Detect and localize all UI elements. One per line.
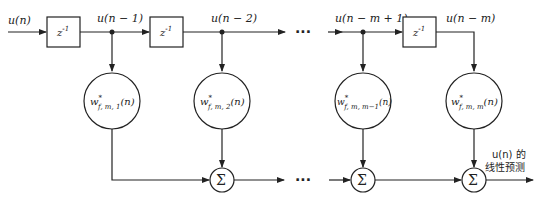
svg-text:Σ: Σ [216, 172, 226, 188]
input-label: u(n) [8, 14, 31, 27]
weight-node-4: w*f, m, m(n) [446, 73, 502, 129]
delay-block-1: z-1 [47, 17, 80, 47]
sum-node-2: Σ [351, 168, 375, 192]
tap-label-1: u(n − 1) [97, 12, 143, 25]
delay-block-2: z-1 [150, 17, 183, 47]
delay-block-3: z-1 [403, 17, 436, 47]
tap-label-2: u(n − 2) [211, 12, 257, 25]
weight-node-2: w*f, m, 2(n) [194, 73, 250, 129]
tap-label-4: u(n − m) [446, 12, 495, 25]
weight-node-3: w*f, m, m−1(n) [335, 73, 392, 129]
weight-out-1 [112, 129, 209, 180]
linear-predictor-diagram: u(n) z-1 u(n − 1) z-1 u(n − 2) ··· u(n −… [0, 0, 538, 204]
sum-node-3: Σ [462, 168, 486, 192]
svg-text:Σ: Σ [468, 172, 478, 188]
output-label-line2: 线性预测 [485, 161, 525, 173]
sum-node-1: Σ [210, 168, 234, 192]
weight-node-1: w*f, m, 1(n) [84, 73, 140, 129]
signal-line-4 [436, 32, 474, 71]
ellipsis-top: ··· [295, 24, 311, 40]
output-label-line1: u(n) 的 [492, 148, 526, 160]
svg-text:Σ: Σ [357, 172, 367, 188]
tap-label-3: u(n − m + 1) [335, 12, 408, 25]
ellipsis-bottom: ··· [295, 172, 311, 188]
